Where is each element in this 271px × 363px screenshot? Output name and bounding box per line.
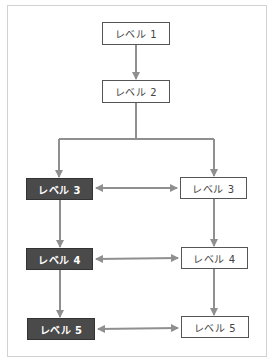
node-label: レベル 5 <box>40 322 83 337</box>
node-label: レベル 5 <box>194 320 236 335</box>
node-label: レベル 2 <box>115 84 157 99</box>
biarrow-row5 <box>98 328 178 329</box>
node-label: レベル 3 <box>192 181 234 196</box>
node-level-2: レベル 2 <box>102 80 170 103</box>
node-right-level-3: レベル 3 <box>180 177 247 199</box>
node-left-level-5: レベル 5 <box>27 318 95 340</box>
node-label: レベル 3 <box>38 182 81 197</box>
node-right-level-4: レベル 4 <box>181 247 248 269</box>
node-left-level-4: レベル 4 <box>26 248 93 270</box>
biarrow-row4 <box>96 258 178 259</box>
node-right-level-5: レベル 5 <box>181 316 249 338</box>
node-left-level-3: レベル 3 <box>26 178 93 200</box>
node-label: レベル 4 <box>193 251 235 266</box>
node-level-1: レベル 1 <box>102 22 170 45</box>
node-label: レベル 4 <box>38 252 81 267</box>
node-label: レベル 1 <box>115 26 157 41</box>
